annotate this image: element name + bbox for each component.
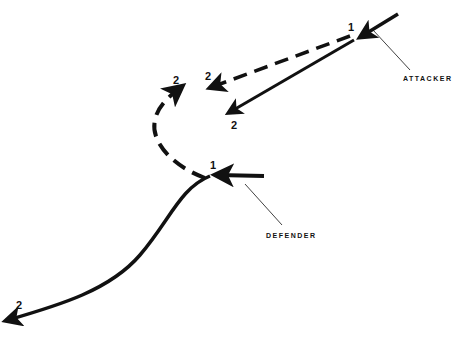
- defender-label: DEFENDER: [266, 232, 317, 239]
- attacker-dashed-end-label: 2: [205, 70, 211, 82]
- defender-solid-end-label: 2: [16, 299, 22, 311]
- defender-path: [8, 88, 264, 320]
- attacker-label: ATTACKER: [403, 75, 452, 82]
- attacker-path: [212, 14, 398, 112]
- diagram-canvas: 1 2 2 2 1 2 ATTACKER DEFENDER: [0, 0, 469, 341]
- defender-pointer: [245, 184, 282, 225]
- maneuver-diagram: 1 2 2 2 1 2 ATTACKER DEFENDER: [0, 0, 469, 341]
- defender-dashed-end-label: 2: [173, 74, 179, 86]
- attacker-solid-end-label: 2: [231, 119, 237, 131]
- attacker-pointer: [373, 30, 410, 70]
- defender-start-label: 1: [210, 159, 216, 171]
- attacker-start-label: 1: [348, 21, 354, 33]
